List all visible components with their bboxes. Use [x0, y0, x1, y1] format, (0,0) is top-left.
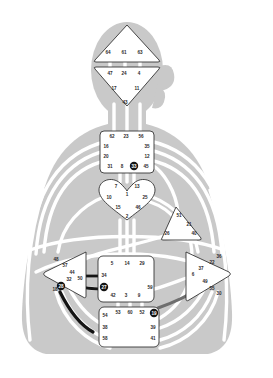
- gate-number-29[interactable]: 29: [139, 261, 145, 266]
- gate-number-62[interactable]: 62: [109, 134, 115, 139]
- gate-number-50[interactable]: 50: [77, 276, 83, 281]
- gate-number-45[interactable]: 45: [143, 164, 149, 169]
- gate-number-15[interactable]: 15: [115, 205, 121, 210]
- gate-number-31[interactable]: 31: [107, 164, 113, 169]
- gate-number-14[interactable]: 14: [124, 261, 130, 266]
- gate-number-16[interactable]: 16: [103, 144, 109, 149]
- gate-number-25[interactable]: 25: [142, 195, 148, 200]
- gate-number-56[interactable]: 56: [138, 134, 144, 139]
- gate-number-53[interactable]: 53: [115, 310, 121, 315]
- gate-number-44[interactable]: 44: [69, 270, 75, 275]
- gate-number-9[interactable]: 9: [138, 293, 141, 298]
- gate-number-46[interactable]: 46: [135, 205, 141, 210]
- gate-number-60[interactable]: 60: [127, 310, 133, 315]
- gate-number-28[interactable]: 28: [58, 284, 64, 289]
- gate-number-27[interactable]: 27: [101, 285, 107, 290]
- gate-number-51[interactable]: 51: [176, 213, 182, 218]
- gate-number-3[interactable]: 3: [125, 293, 128, 298]
- gate-number-40[interactable]: 40: [191, 231, 197, 236]
- gate-number-35[interactable]: 35: [144, 144, 150, 149]
- gate-number-11[interactable]: 11: [135, 86, 140, 91]
- gate-number-34[interactable]: 34: [101, 273, 107, 278]
- gate-number-2[interactable]: 2: [126, 214, 129, 219]
- bodygraph-svg: 6461634724417114362235616352012318334571…: [0, 0, 273, 378]
- gate-number-10[interactable]: 10: [106, 195, 112, 200]
- gate-number-19[interactable]: 19: [151, 311, 157, 316]
- gate-number-38[interactable]: 38: [102, 325, 108, 330]
- gate-number-37[interactable]: 37: [198, 266, 204, 271]
- gate-number-12[interactable]: 12: [144, 154, 150, 159]
- gate-number-5[interactable]: 5: [111, 261, 114, 266]
- gate-number-63[interactable]: 63: [137, 50, 143, 55]
- gate-number-57[interactable]: 57: [62, 263, 68, 268]
- gate-number-4[interactable]: 4: [138, 71, 141, 76]
- gate-number-1[interactable]: 1: [126, 192, 129, 197]
- gate-number-43[interactable]: 43: [122, 100, 128, 105]
- gate-number-8[interactable]: 8: [121, 164, 124, 169]
- gate-number-39[interactable]: 39: [150, 325, 156, 330]
- gate-number-59[interactable]: 59: [147, 285, 153, 290]
- bodygraph-canvas: 6461634724417114362235616352012318334571…: [0, 0, 273, 378]
- gate-number-64[interactable]: 64: [105, 50, 111, 55]
- gate-number-52[interactable]: 52: [139, 310, 145, 315]
- gate-number-7[interactable]: 7: [115, 184, 118, 189]
- gate-number-23[interactable]: 23: [123, 134, 129, 139]
- gate-number-18[interactable]: 18: [52, 287, 58, 292]
- gate-number-17[interactable]: 17: [111, 86, 117, 91]
- gate-number-13[interactable]: 13: [134, 184, 140, 189]
- gate-number-47[interactable]: 47: [107, 71, 113, 76]
- gate-number-32[interactable]: 32: [66, 277, 72, 282]
- gate-number-22[interactable]: 22: [209, 260, 215, 265]
- gate-number-61[interactable]: 61: [121, 50, 127, 55]
- gate-number-48[interactable]: 48: [53, 257, 59, 262]
- gate-number-49[interactable]: 49: [202, 279, 208, 284]
- gate-number-30[interactable]: 30: [216, 291, 222, 296]
- gate-number-55[interactable]: 55: [209, 286, 215, 291]
- gate-number-26[interactable]: 26: [164, 231, 170, 236]
- gate-number-20[interactable]: 20: [103, 154, 109, 159]
- gate-number-24[interactable]: 24: [121, 71, 127, 76]
- gate-number-36[interactable]: 36: [216, 254, 222, 259]
- gate-number-42[interactable]: 42: [110, 293, 116, 298]
- gate-number-41[interactable]: 41: [150, 336, 156, 341]
- gate-number-6[interactable]: 6: [192, 272, 195, 277]
- gate-number-21[interactable]: 21: [186, 222, 192, 227]
- gate-number-33[interactable]: 33: [131, 164, 137, 169]
- gate-number-54[interactable]: 54: [102, 313, 108, 318]
- gate-number-58[interactable]: 58: [102, 336, 108, 341]
